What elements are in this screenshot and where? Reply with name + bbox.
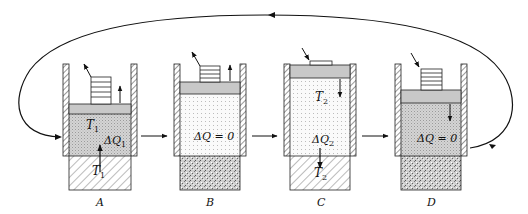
- arrow-head-icon: [268, 12, 275, 18]
- stage-label-a: A: [96, 196, 104, 209]
- reservoir-temp-label-c: T2: [314, 166, 327, 182]
- gas-temp-label-c: T2: [315, 90, 328, 106]
- weight-added-arrow: [302, 48, 309, 60]
- piston-c: [290, 65, 350, 78]
- stage-label-d: D: [427, 196, 436, 209]
- weight-added-arrow: [411, 53, 419, 67]
- stage-label-c: C: [317, 196, 325, 209]
- cylinder-wall-left: [174, 64, 180, 156]
- gas-d: [401, 103, 461, 156]
- cylinder-wall-right: [131, 64, 137, 156]
- cylinder-wall-right: [350, 64, 356, 156]
- cylinder-wall-left: [284, 64, 290, 156]
- heat-label-d: ΔQ = 0: [417, 132, 457, 145]
- gas-temp-label-a: T1: [86, 118, 99, 134]
- cylinder-wall-right: [240, 64, 246, 156]
- carnot-cycle-diagram: [0, 0, 528, 214]
- stage-d: [395, 53, 467, 190]
- heat-label-a: ΔQ1: [104, 134, 126, 149]
- arrow-head-icon: [55, 134, 62, 140]
- cylinder-wall-left: [395, 64, 401, 156]
- small-weight-c: [310, 61, 332, 65]
- gas-b: [180, 94, 240, 156]
- weights-stack-b: [200, 66, 220, 82]
- piston-b: [180, 82, 240, 94]
- stage-b: [174, 52, 246, 190]
- stage-label-b: B: [206, 196, 214, 209]
- reservoir-temp-label-a: T1: [92, 164, 105, 180]
- weight-removed-arrow: [192, 52, 200, 66]
- insulator-base: [401, 156, 461, 190]
- piston-a: [69, 104, 131, 114]
- arrow-head-icon: [489, 144, 496, 149]
- cylinder-wall-left: [63, 64, 69, 156]
- cylinder-wall-right: [461, 64, 467, 156]
- weights-stack-a: [91, 77, 111, 104]
- piston-d: [401, 90, 461, 103]
- insulator-base: [180, 156, 240, 190]
- heat-label-b: ΔQ = 0: [194, 130, 234, 143]
- weights-stack-d: [421, 69, 442, 90]
- heat-label-c: ΔQ2: [312, 133, 334, 148]
- weight-removed-arrow: [84, 64, 91, 77]
